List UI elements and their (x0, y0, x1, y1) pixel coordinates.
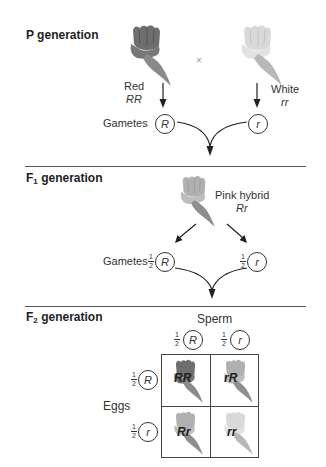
f1-gamete-r: r (247, 252, 267, 272)
fraction-numerator: 1 (132, 371, 136, 378)
fraction-denominator: 2 (175, 340, 179, 347)
f1-gametes-label: Gametes (103, 255, 148, 267)
fraction-numerator: 1 (132, 423, 136, 430)
fraction-numerator: 1 (149, 253, 153, 260)
cell-rR-label: rR (224, 371, 237, 385)
eggs-label: Eggs (103, 399, 130, 413)
fraction-denominator: 2 (132, 432, 136, 439)
fraction-denominator: 2 (149, 262, 153, 269)
fraction-denominator: 2 (241, 262, 245, 269)
egg-R-fraction: 12 (131, 371, 137, 387)
f2-label-rest: generation (38, 310, 103, 324)
fraction-denominator: 2 (222, 340, 226, 347)
sperm-R-fraction: 12 (174, 331, 180, 347)
grid-horizontal-divider (162, 406, 258, 407)
sperm-R: R (183, 330, 203, 350)
fraction-numerator: 1 (175, 331, 179, 338)
egg-R: R (138, 370, 158, 390)
f1-gamete-r-fraction: 12 (240, 253, 246, 269)
cell-rr-label: rr (227, 425, 236, 439)
cell-RR-label: RR (174, 371, 191, 385)
sperm-label: Sperm (197, 312, 232, 326)
fraction-numerator: 1 (241, 253, 245, 260)
f2-generation-label: F2 generation (26, 310, 102, 325)
sperm-r: r (230, 330, 250, 350)
punnett-square: RR rR Rr rr (161, 354, 259, 458)
fraction-denominator: 2 (132, 380, 136, 387)
f1-arrows (0, 0, 326, 320)
flower-rr-icon (220, 411, 256, 455)
egg-r: r (138, 422, 158, 442)
egg-r-fraction: 12 (131, 423, 137, 439)
cell-Rr-label: Rr (177, 425, 190, 439)
sperm-r-fraction: 12 (221, 331, 227, 347)
f1-gamete-R-fraction: 12 (148, 253, 154, 269)
fraction-numerator: 1 (222, 331, 226, 338)
f1-gamete-R: R (155, 252, 175, 272)
